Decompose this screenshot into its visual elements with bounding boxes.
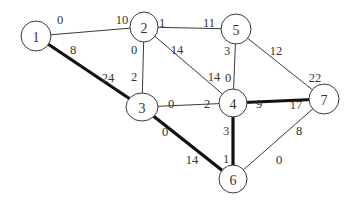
- edge-5-7: [236, 29, 324, 99]
- edge-label-1-3-from: 8: [70, 43, 76, 57]
- node-label: 2: [141, 21, 148, 36]
- edge-label-2-4-to: 14: [208, 70, 221, 84]
- edge-label-4-6-to: 1: [223, 152, 229, 166]
- edge-label-3-6-to: 14: [186, 153, 199, 167]
- edge-6-7: [233, 99, 324, 179]
- edge-2-4: [144, 27, 233, 103]
- node-label: 3: [139, 101, 146, 116]
- edge-label-4-7-to: 17: [290, 98, 303, 112]
- node-label: 4: [230, 97, 237, 112]
- edge-label-5-4-to: 0: [225, 71, 231, 85]
- edge-label-3-4-to: 2: [204, 97, 210, 111]
- node-label: 6: [230, 173, 237, 188]
- edge-label-3-6-from: 0: [162, 125, 168, 139]
- edge-label-3-4-from: 0: [168, 97, 174, 111]
- edge-label-1-2-from: 0: [57, 13, 63, 27]
- edge-label-2-5-from: 1: [159, 16, 165, 30]
- edge-1-3: [36, 36, 142, 107]
- edge-label-4-6-from: 3: [223, 124, 229, 138]
- edge-label-2-5-to: 11: [203, 16, 215, 30]
- node-label: 7: [321, 93, 328, 108]
- edge-label-5-7-to: 22: [309, 71, 322, 85]
- node-label: 1: [33, 30, 40, 45]
- node-label: 5: [233, 23, 240, 38]
- node-4: 4: [219, 89, 247, 117]
- edge-1-2: [36, 27, 144, 36]
- edge-label-6-7-from: 0: [276, 153, 282, 167]
- node-5: 5: [221, 14, 251, 44]
- edge-label-6-7-to: 8: [296, 124, 302, 138]
- edge-label-5-7-from: 12: [270, 44, 283, 58]
- graph-diagram: 010824111021414301222029170143108 125347…: [0, 0, 357, 205]
- node-2: 2: [130, 12, 158, 42]
- node-1: 1: [21, 21, 51, 51]
- edge-label-2-3-from: 0: [131, 43, 137, 57]
- node-6: 6: [219, 165, 247, 193]
- edge-label-2-4-from: 14: [171, 43, 184, 57]
- node-3: 3: [126, 93, 158, 121]
- edge-3-6: [142, 107, 233, 179]
- edge-label-5-4-from: 3: [224, 44, 230, 58]
- edge-label-2-3-to: 2: [131, 70, 137, 84]
- node-7: 7: [309, 84, 339, 114]
- edge-label-4-7-from: 9: [256, 97, 262, 111]
- edge-label-1-3-to: 24: [102, 71, 115, 85]
- edge-label-1-2-to: 10: [116, 13, 129, 27]
